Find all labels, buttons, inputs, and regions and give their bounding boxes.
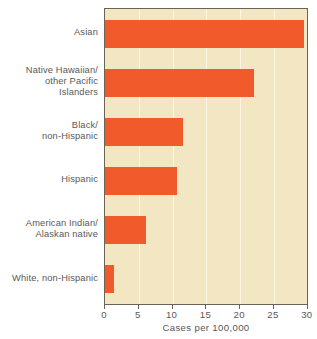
category-label-hispanic: Hispanic — [0, 174, 98, 185]
bar-chart: Asian Native Hawaiian/ other Pacific Isl… — [0, 0, 317, 339]
gridline — [240, 9, 241, 304]
bar — [105, 216, 146, 244]
bar — [105, 20, 304, 48]
bar — [105, 69, 254, 97]
gridline — [206, 9, 207, 304]
gridline — [173, 9, 174, 304]
category-label-asian: Asian — [0, 27, 98, 38]
gridline — [274, 9, 275, 304]
bar — [105, 167, 177, 195]
x-axis-tick-label: 0 — [101, 309, 107, 320]
gridline — [139, 9, 140, 304]
x-axis-tick-label: 5 — [135, 309, 141, 320]
category-axis-labels: Asian Native Hawaiian/ other Pacific Isl… — [0, 8, 101, 305]
x-axis-tick-label: 30 — [301, 309, 312, 320]
x-axis-tick-label: 15 — [200, 309, 211, 320]
x-axis-tick-label: 25 — [267, 309, 278, 320]
x-axis-title: Cases per 100,000 — [104, 322, 308, 333]
x-axis: 051015202530 — [104, 305, 308, 311]
bar — [105, 118, 183, 146]
category-label-american-indian-alaskan-native: American Indian/ Alaskan native — [0, 218, 98, 241]
x-axis-tick-label: 10 — [166, 309, 177, 320]
x-axis-tick-label: 20 — [234, 309, 245, 320]
category-label-white-non-hispanic: White, non-Hispanic — [0, 273, 98, 284]
bar — [105, 265, 114, 293]
category-label-black-non-hispanic: Black/ non-Hispanic — [0, 120, 98, 143]
plot-area — [104, 8, 308, 305]
plot-inner — [105, 9, 307, 304]
category-label-native-hawaiian-pacific-islanders: Native Hawaiian/ other Pacific Islanders — [0, 65, 98, 99]
